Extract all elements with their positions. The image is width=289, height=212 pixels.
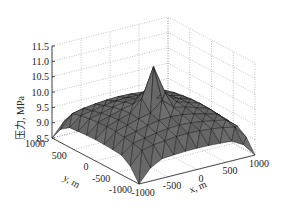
tick-label: 9.5 <box>37 102 50 113</box>
tick-label: -500 <box>92 173 110 184</box>
tick-label: -500 <box>163 180 181 191</box>
tick-label: 0 <box>84 161 89 172</box>
tick-label: 11.0 <box>32 56 49 67</box>
tick-label: 1000 <box>249 158 269 169</box>
tick-label: -1000 <box>131 187 154 198</box>
tick-label: 10.0 <box>32 87 50 98</box>
tick-label: 500 <box>52 150 67 161</box>
tick-label: 1000 <box>25 138 45 149</box>
tick-label: -1000 <box>109 184 132 195</box>
tick-label: 9.0 <box>37 117 50 128</box>
tick-label: 10.5 <box>32 71 50 82</box>
surface-plot: 8.59.09.510.010.511.011.5-1000-500050010… <box>0 0 289 212</box>
tick-label: 500 <box>223 165 238 176</box>
x-axis-label: x, m <box>187 178 208 195</box>
y-axis-label: y, m <box>62 172 83 190</box>
z-axis-label: 压力, MPa <box>14 96 26 140</box>
tick-label: 11.5 <box>32 41 49 52</box>
